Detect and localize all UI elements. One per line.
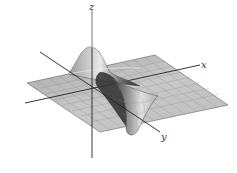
x-axis-label: x bbox=[201, 59, 207, 70]
surface-plot: z x y bbox=[0, 0, 237, 173]
y-axis-back bbox=[40, 52, 70, 72]
y-axis-label: y bbox=[160, 131, 167, 142]
z-axis-label: z bbox=[88, 1, 95, 12]
